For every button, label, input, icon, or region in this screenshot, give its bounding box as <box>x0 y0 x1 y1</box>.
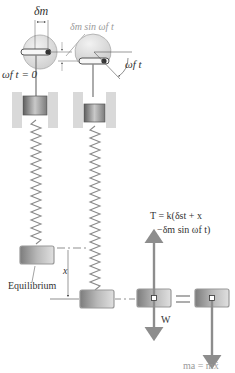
inertia-label: ma = mẍ <box>183 360 219 371</box>
kinetic-center-point <box>210 296 215 301</box>
tension-label-line1: T = k(δst + x <box>150 210 202 221</box>
right-piston <box>84 104 105 122</box>
left-exciter <box>21 20 57 98</box>
tension-label-line2: −δm sin ωf t) <box>157 224 210 235</box>
displaced-block <box>80 290 114 308</box>
left-eccentric-pin <box>45 49 50 54</box>
left-wall-a <box>12 92 22 128</box>
right-wall-b <box>106 92 116 128</box>
left-spring <box>31 120 41 244</box>
weight-label: W <box>161 314 170 325</box>
left-wall-b <box>48 92 58 128</box>
equilibrium-label: Equilibrium <box>8 280 56 291</box>
delta-m-label: δm <box>34 4 48 19</box>
diagram-canvas: δm δm sin ωf t ωf t = 0 ωf t Equilibrium… <box>0 0 235 373</box>
equilibrium-block <box>20 246 54 264</box>
right-eccentric-pin <box>101 58 106 63</box>
left-piston <box>23 96 47 115</box>
omega-t0-label: ωf t = 0 <box>2 68 37 80</box>
omega-t-label: ωf t <box>125 58 142 70</box>
delta-sin-label: δm sin ωf t <box>70 21 114 32</box>
fbd-center-point <box>152 296 157 301</box>
right-wall-a <box>73 92 83 128</box>
right-spring <box>90 126 100 290</box>
x-label: x <box>63 265 67 276</box>
right-exciter <box>75 34 132 97</box>
guides <box>12 92 116 128</box>
diagram-svg <box>0 0 235 373</box>
